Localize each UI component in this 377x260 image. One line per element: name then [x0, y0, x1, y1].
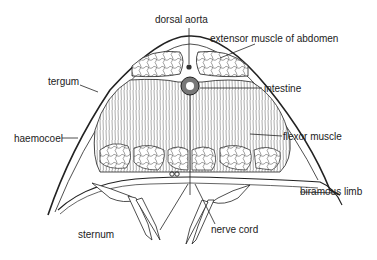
label-tergum: tergum [48, 76, 79, 87]
label-biramous-limb: biramous limb [300, 186, 362, 197]
label-nerve-cord: nerve cord [211, 224, 258, 235]
label-intestine: intestine [264, 83, 301, 94]
label-flexor-muscle: flexor muscle [283, 131, 342, 142]
dorsal-aorta [186, 64, 191, 69]
label-sternum: sternum [78, 229, 114, 240]
label-extensor-muscle: extensor muscle of abdomen [210, 33, 338, 44]
extensor-muscle-right [196, 51, 248, 76]
label-dorsal-aorta: dorsal aorta [155, 14, 208, 25]
biramous-limb-right [186, 185, 250, 244]
nerve-cord [170, 172, 179, 176]
label-haemocoel: haemocoel [14, 133, 63, 144]
extensor-muscle-left [132, 51, 183, 76]
